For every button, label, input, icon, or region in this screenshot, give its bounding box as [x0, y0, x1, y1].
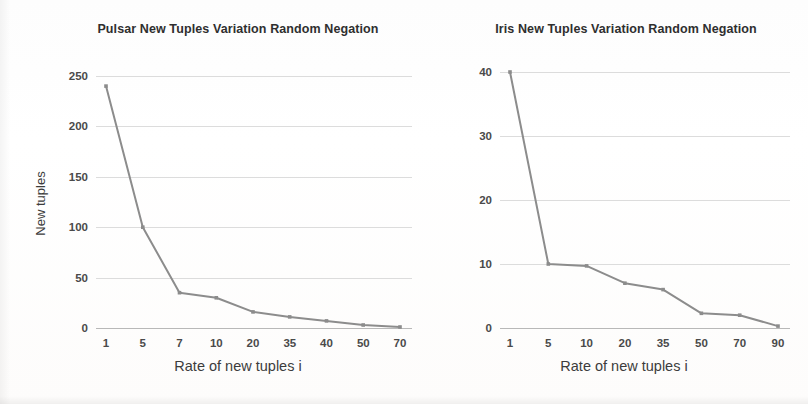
x-tick-label: 10 — [210, 337, 223, 349]
series-line-pulsar-chart — [96, 76, 412, 328]
charts-container: Pulsar New Tuples Variation Random Negat… — [0, 0, 808, 404]
x-tick-label: 40 — [320, 337, 333, 349]
plot-area-pulsar: 050100150200250157102035405070 — [96, 76, 412, 328]
x-tick-label: 5 — [545, 337, 551, 349]
y-tick-label: 0 — [486, 322, 492, 334]
x-tick-label: 10 — [580, 337, 593, 349]
data-point-marker — [361, 323, 365, 327]
y-axis-label-pulsar: New tuples — [33, 158, 48, 250]
x-tick-label: 7 — [176, 337, 182, 349]
data-point-marker — [776, 324, 780, 328]
x-tick-label: 70 — [733, 337, 746, 349]
chart-panel-iris: Iris New Tuples Variation Random Negatio… — [432, 0, 808, 404]
chart-panel-pulsar: Pulsar New Tuples Variation Random Negat… — [0, 0, 432, 404]
x-axis-baseline — [96, 328, 412, 329]
chart-title-pulsar: Pulsar New Tuples Variation Random Negat… — [0, 22, 454, 36]
data-point-marker — [215, 296, 219, 300]
data-point-marker — [623, 281, 627, 285]
data-point-marker — [738, 313, 742, 317]
data-point-marker — [547, 262, 551, 266]
x-tick-label: 70 — [394, 337, 407, 349]
y-tick-label: 150 — [69, 171, 88, 183]
data-point-marker — [508, 70, 512, 74]
x-axis-label-iris: Rate of new tuples i — [436, 358, 808, 374]
x-tick-label: 20 — [247, 337, 260, 349]
series-polyline — [510, 72, 778, 326]
data-point-marker — [141, 225, 145, 229]
data-point-marker — [104, 84, 108, 88]
data-point-marker — [251, 310, 255, 314]
x-tick-label: 90 — [772, 337, 785, 349]
data-point-marker — [661, 288, 665, 292]
y-tick-label: 0 — [82, 322, 88, 334]
x-tick-label: 50 — [695, 337, 708, 349]
series-polyline — [106, 86, 400, 327]
data-point-marker — [178, 291, 182, 295]
y-tick-label: 100 — [69, 221, 88, 233]
y-tick-label: 30 — [479, 130, 492, 142]
x-tick-label: 1 — [507, 337, 513, 349]
plot-area-iris: 01020304015102035507090 — [500, 72, 790, 328]
x-tick-label: 1 — [103, 337, 109, 349]
data-point-marker — [288, 315, 292, 319]
series-line-iris-chart — [500, 72, 790, 328]
data-point-marker — [325, 319, 329, 323]
x-tick-label: 35 — [283, 337, 296, 349]
x-tick-label: 5 — [140, 337, 146, 349]
chart-title-iris: Iris New Tuples Variation Random Negatio… — [432, 22, 808, 36]
data-point-marker — [585, 264, 589, 268]
x-axis-baseline — [500, 328, 790, 329]
x-tick-label: 20 — [618, 337, 631, 349]
y-tick-label: 20 — [479, 194, 492, 206]
y-tick-label: 200 — [69, 120, 88, 132]
y-tick-label: 40 — [479, 66, 492, 78]
y-tick-label: 250 — [69, 70, 88, 82]
y-tick-label: 50 — [75, 272, 88, 284]
x-axis-label-pulsar: Rate of new tuples i — [22, 358, 454, 374]
y-tick-label: 10 — [479, 258, 492, 270]
data-point-marker — [700, 312, 704, 316]
x-tick-label: 35 — [657, 337, 670, 349]
data-point-marker — [398, 325, 402, 329]
x-tick-label: 50 — [357, 337, 370, 349]
